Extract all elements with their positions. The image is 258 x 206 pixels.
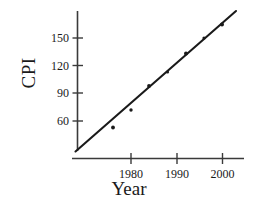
data-points bbox=[111, 23, 224, 130]
data-point bbox=[202, 36, 205, 39]
cpi-vs-year-chart: 60 90 120 150 1980 1990 2000 CPI Year bbox=[0, 0, 258, 206]
data-point bbox=[220, 23, 224, 27]
data-point bbox=[184, 52, 188, 56]
y-axis-title: CPI bbox=[18, 50, 40, 96]
y-tick-label-60: 60 bbox=[44, 115, 69, 127]
y-tick-label-90: 90 bbox=[44, 87, 69, 99]
data-point bbox=[166, 70, 169, 73]
trend-line bbox=[76, 11, 237, 152]
data-point bbox=[147, 84, 151, 88]
x-axis-title: Year bbox=[0, 178, 258, 200]
y-tick-label-150: 150 bbox=[38, 32, 69, 44]
data-point bbox=[129, 108, 132, 111]
data-point bbox=[111, 126, 115, 130]
y-tick-label-120: 120 bbox=[38, 60, 69, 72]
